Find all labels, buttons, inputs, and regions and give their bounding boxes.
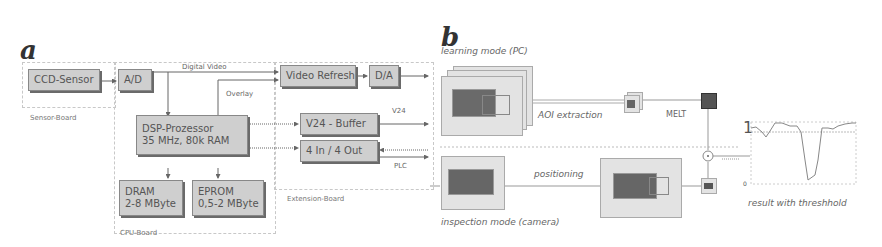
result-plot (0, 0, 882, 247)
result-caption: result with threshhold (748, 198, 847, 208)
